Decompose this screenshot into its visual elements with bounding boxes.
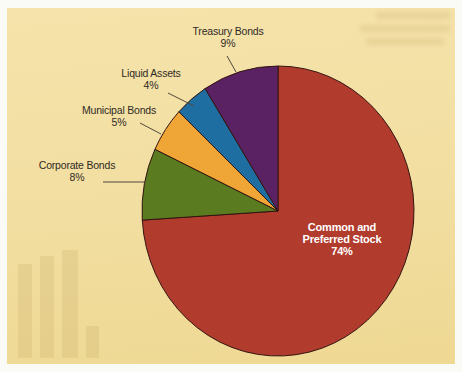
label-treasury-bonds-name: Treasury Bonds bbox=[168, 25, 288, 37]
label-liquid-assets-value: 4% bbox=[91, 79, 211, 91]
page: { "figure": { "page_color": "#FAFAF6", "… bbox=[0, 0, 462, 372]
label-corporate-bonds-name: Corporate Bonds bbox=[17, 159, 137, 171]
label-common-preferred-stock-name: Common and Preferred Stock bbox=[290, 221, 394, 245]
label-corporate-bonds: Corporate Bonds 8% bbox=[17, 159, 137, 183]
label-treasury-bonds-value: 9% bbox=[168, 37, 288, 49]
label-liquid-assets: Liquid Assets 4% bbox=[91, 67, 211, 91]
label-municipal-bonds: Municipal Bonds 5% bbox=[59, 104, 179, 128]
label-common-preferred-stock: Common and Preferred Stock 74% bbox=[290, 221, 394, 257]
pie-chart bbox=[0, 0, 462, 372]
label-municipal-bonds-name: Municipal Bonds bbox=[59, 104, 179, 116]
label-municipal-bonds-value: 5% bbox=[59, 116, 179, 128]
label-treasury-bonds: Treasury Bonds 9% bbox=[168, 25, 288, 49]
label-liquid-assets-name: Liquid Assets bbox=[91, 67, 211, 79]
label-corporate-bonds-value: 8% bbox=[17, 171, 137, 183]
leader-line-treasury-bonds bbox=[227, 56, 236, 72]
label-common-preferred-stock-value: 74% bbox=[290, 245, 394, 257]
